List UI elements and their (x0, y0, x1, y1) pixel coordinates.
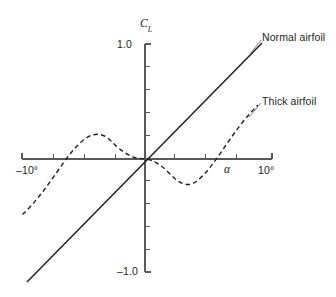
chart-canvas (0, 0, 336, 297)
series-label-thick-airfoil: Thick airfoil (262, 96, 316, 107)
x-axis-tick-label-left: –10° (16, 165, 38, 176)
leader-thick-airfoil (249, 103, 261, 117)
series-label-normal-airfoil: Normal airfoil (262, 32, 325, 43)
axes-group (22, 44, 272, 272)
x-axis-tick-label-right: 10° (258, 165, 274, 176)
y-axis-symbol-subscript: L (148, 25, 153, 34)
x-axis-title: α (224, 164, 230, 176)
annotation-leaders (249, 40, 261, 117)
y-axis-tick-label-top: 1.0 (117, 39, 132, 50)
y-axis-title: CL (140, 18, 152, 32)
chart-figure: CL 1.0 –1.0 –10° 10° α Normal airfoil Th… (0, 0, 336, 297)
y-axis-tick-label-bottom: –1.0 (117, 266, 138, 277)
leader-normal-airfoil (250, 40, 261, 54)
x-axis-ticks (22, 153, 272, 159)
y-axis-symbol-base: C (140, 17, 148, 29)
series-thick-airfoil-curve (23, 105, 259, 215)
